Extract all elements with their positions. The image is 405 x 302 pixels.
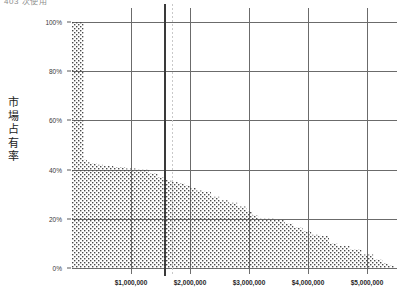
y-tick-label: 40% [28,166,62,173]
y-tick-mark [67,169,71,170]
market-share-chart: 403 次使用 市場占有率 100%80%60%40%20%0% $1,000,… [0,0,405,302]
y-tick-mark [67,120,71,121]
y-tick-mark [67,218,71,219]
plot-area [72,22,397,268]
y-tick-label: 80% [28,68,62,75]
x-tick-label: $3,000,000 [233,279,266,286]
y-tick-mark [67,71,71,72]
market-share-area-series [72,22,397,268]
area-fill [72,22,394,268]
y-axis-title-char: 場 [6,110,20,124]
y-axis-title: 市場占有率 [6,96,20,164]
y-tick-mark [67,22,71,23]
y-tick-label: 0% [28,265,62,272]
y-axis-title-char: 占 [6,123,20,137]
x-tick-label: $2,000,000 [174,279,207,286]
x-tick-label: $5,000,000 [351,279,384,286]
x-tick-label: $1,000,000 [115,279,148,286]
y-tick-label: 60% [28,117,62,124]
x-tick-label: $4,000,000 [292,279,325,286]
y-tick-label: 20% [28,215,62,222]
y-axis-title-char: 市 [6,96,20,110]
chart-title: 403 次使用 [4,0,47,6]
y-tick-label: 100% [28,19,62,26]
gridline-horizontal [72,268,397,269]
y-axis-title-char: 率 [6,150,20,164]
y-axis-title-char: 有 [6,137,20,151]
y-tick-mark [67,268,71,269]
